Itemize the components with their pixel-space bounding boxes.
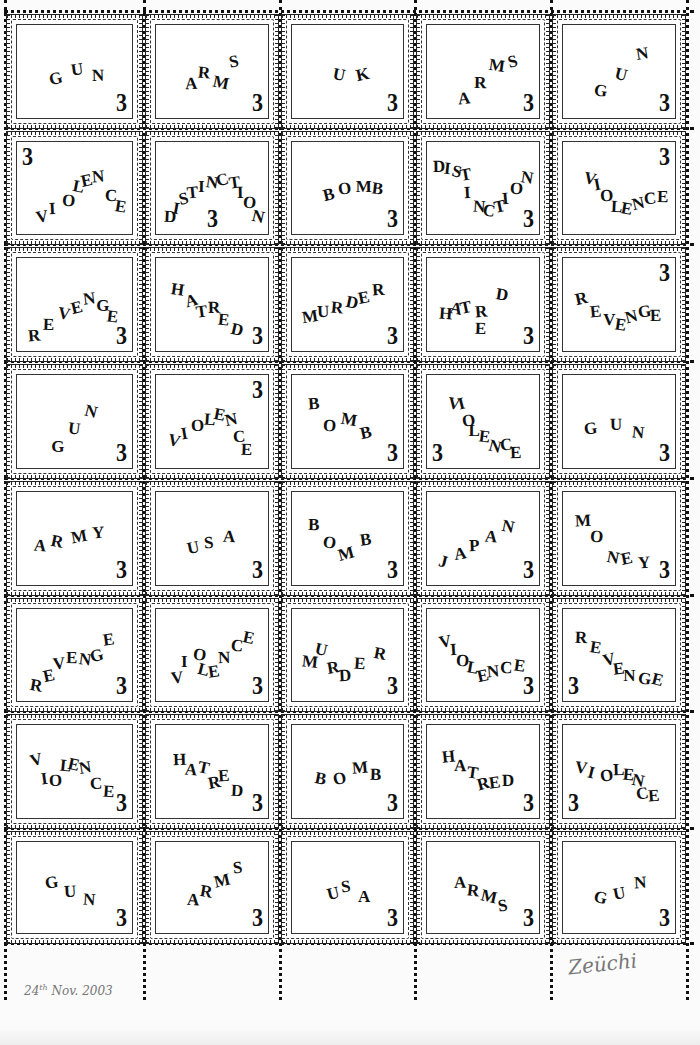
stamp-letter: M	[213, 870, 232, 890]
stamp-letter: E	[650, 306, 662, 323]
denomination-value: 3	[659, 258, 670, 288]
stamp-letter: O	[337, 180, 352, 198]
stamp-letter: M	[575, 512, 592, 530]
stamp-letter: A	[457, 89, 471, 107]
stamp-gun: GUN3	[6, 831, 143, 944]
stamp-letter: U	[186, 538, 202, 557]
stamp-letter: G	[593, 888, 609, 907]
denomination-value: 3	[252, 788, 263, 818]
stamp-letter: R	[575, 629, 588, 646]
stamp-letter: E	[69, 297, 84, 316]
stamp-violence: VIOLENCE3	[416, 598, 550, 712]
stamp-gun: GUN3	[552, 831, 686, 944]
stamp-letter: R	[574, 289, 590, 308]
stamp-frame: VIOLENCE3	[16, 724, 133, 819]
denomination-value: 3	[568, 788, 579, 818]
stamp-distinction: DISTINCTION3	[145, 131, 279, 245]
stamp-frame: ARMS3	[155, 841, 269, 934]
stamp-letter: S	[232, 859, 243, 877]
stamp-letter: U	[325, 884, 341, 903]
stamp-frame: MURDER3	[291, 257, 404, 352]
stamp-arms: ARMS3	[416, 14, 550, 129]
stamp-letter: U	[313, 640, 329, 659]
denomination-value: 3	[432, 438, 443, 468]
stamp-frame: BOMB3	[291, 724, 404, 819]
stamp-frame: USA3	[155, 491, 269, 586]
stamp-letter: I	[197, 178, 204, 195]
stamp-letter: M	[340, 410, 359, 430]
stamp-letter: C	[500, 658, 513, 675]
stamp-letter: V	[28, 750, 44, 770]
stamp-frame: GUN3	[16, 374, 133, 469]
stamp-letter: G	[583, 419, 598, 438]
stamp-letter: D	[494, 285, 509, 304]
stamp-letter: N	[633, 873, 646, 891]
stamp-letter: G	[47, 68, 64, 88]
denomination-value: 3	[387, 555, 398, 585]
stamp-letter: B	[313, 769, 327, 788]
denomination-value: 3	[252, 375, 263, 405]
stamp-letter: M	[356, 178, 372, 195]
stamp-frame: GUN3	[562, 374, 676, 469]
stamp-frame: BOMB3	[291, 374, 404, 469]
stamp-letter: E	[353, 655, 366, 673]
stamp-frame: VIOLENCE3	[562, 141, 676, 235]
stamp-japan: JAPAN3	[416, 481, 550, 596]
stamp-frame: ARMY3	[16, 491, 133, 586]
stamp-letter: N	[605, 548, 620, 567]
stamp-frame: UK3	[291, 24, 404, 119]
stamp-letter: A	[358, 888, 370, 905]
stamp-letter: N	[500, 517, 516, 536]
stamp-letter: U	[610, 415, 623, 432]
stamp-sheet: GUN3ARMS3UK3ARMS3GUN3VIOLENCE3DISTINCTIO…	[0, 0, 700, 1045]
denomination-value: 3	[116, 321, 127, 351]
stamp-hatred: HATRED3	[416, 247, 550, 362]
stamp-letter: E	[510, 444, 522, 461]
denomination-value: 3	[387, 438, 398, 468]
stamp-money: MONEY3	[552, 481, 686, 596]
denomination-value: 3	[523, 88, 534, 118]
denomination-value: 3	[387, 903, 398, 933]
stamp-letter: N	[92, 67, 105, 84]
stamp-letter: O	[322, 417, 336, 435]
stamp-frame: MONEY3	[562, 491, 676, 586]
stamp-violence: VIOLENCE3	[6, 714, 143, 829]
stamp-letter: A	[454, 873, 467, 890]
stamp-letter: B	[370, 765, 382, 782]
denomination-value: 3	[22, 142, 33, 172]
stamp-frame: GUN3	[16, 24, 133, 119]
stamp-letter: I	[49, 199, 57, 216]
stamp-letter: C	[89, 775, 102, 793]
denomination-value: 3	[523, 555, 534, 585]
stamp-letter: T	[459, 298, 474, 317]
stamp-letter: U	[69, 61, 84, 80]
stamp-frame: HATRED3	[426, 724, 540, 819]
stamp-letter: I	[180, 425, 189, 443]
stamp-letter: S	[506, 52, 520, 71]
stamp-letter: O	[332, 768, 348, 787]
stamp-letter: M	[488, 56, 506, 75]
stamp-gun: GUN3	[6, 14, 143, 129]
stamp-violence: VIOLENCE3	[145, 598, 279, 712]
stamp-letter: S	[203, 534, 214, 552]
stamp-letter: I	[39, 769, 48, 787]
stamp-letter: N	[84, 402, 100, 421]
stamp-letter: N	[83, 891, 96, 909]
stamp-frame: ARMS3	[155, 24, 269, 119]
stamp-letter: E	[102, 783, 115, 801]
stamp-letter: R	[50, 531, 66, 550]
stamp-letter: P	[468, 536, 479, 553]
stamp-murder: MURDER3	[281, 598, 414, 712]
stamp-letter: E	[656, 188, 668, 205]
stamp-bomb: BOMB3	[281, 364, 414, 479]
stamp-uk: UK3	[281, 14, 414, 129]
stamp-letter: N	[91, 167, 105, 185]
stamp-letter: E	[589, 302, 602, 320]
stamp-bomb: BOMB3	[281, 481, 414, 596]
stamp-revenge: REVENGE3	[552, 598, 686, 712]
stamp-letter: M	[212, 72, 231, 92]
stamp-letter: U	[613, 64, 629, 83]
stamp-frame: REVENGE3	[16, 608, 133, 702]
denomination-value: 3	[659, 142, 670, 172]
denomination-value: 3	[523, 204, 534, 234]
